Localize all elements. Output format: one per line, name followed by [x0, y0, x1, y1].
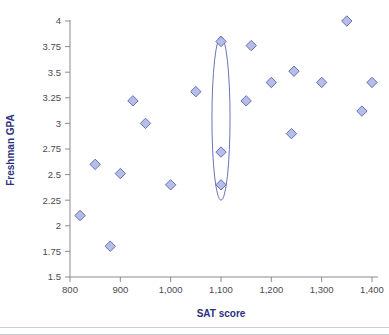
data-point-marker: [140, 118, 150, 128]
x-tick-label: 1,000: [159, 284, 183, 295]
y-tick-label: 4: [56, 15, 61, 26]
data-point-marker: [266, 77, 276, 87]
x-axis-tick-labels: 8009001,0001,1001,2001,3001,400: [62, 284, 384, 295]
data-point-marker: [342, 16, 352, 26]
x-tick-label: 800: [62, 284, 78, 295]
x-tick-label: 900: [112, 284, 128, 295]
y-tick-label: 1.75: [43, 246, 62, 257]
x-tick-label: 1,100: [209, 284, 233, 295]
data-point-marker: [90, 159, 100, 169]
y-tick-label: 3.75: [43, 41, 62, 52]
data-point-marker: [316, 77, 326, 87]
data-point-marker: [128, 96, 138, 106]
annotation-layer: [212, 36, 230, 200]
y-tick-label: 3: [56, 118, 61, 129]
chart-canvas: 8009001,0001,1001,2001,3001,400 1.51.752…: [0, 0, 389, 335]
x-tick-label: 1,200: [259, 284, 283, 295]
data-point-marker: [115, 168, 125, 178]
highlight-ellipse: [212, 36, 230, 200]
y-tick-label: 1.5: [48, 271, 61, 282]
y-tick-label: 3.25: [43, 92, 62, 103]
x-tick-label: 1,400: [360, 284, 384, 295]
y-tick-label: 2.75: [43, 143, 62, 154]
y-tick-label: 2.5: [48, 169, 61, 180]
footer-divider: [0, 327, 389, 335]
data-point-marker: [216, 180, 226, 190]
y-axis-title: Freshman GPA: [5, 114, 16, 186]
data-point-marker: [191, 86, 201, 96]
y-tick-label: 2.25: [43, 195, 62, 206]
data-point-marker: [105, 241, 115, 251]
data-point-marker: [165, 180, 175, 190]
y-tick-label: 3.5: [48, 67, 61, 78]
data-point-marker: [357, 106, 367, 116]
data-point-marker: [241, 96, 251, 106]
data-point-marker: [367, 77, 377, 87]
data-point-marker: [286, 128, 296, 138]
y-axis-tick-labels: 1.51.7522.252.52.7533.253.53.754: [43, 15, 62, 282]
data-point-marker: [75, 210, 85, 220]
data-point-marker: [246, 40, 256, 50]
x-tick-label: 1,300: [310, 284, 334, 295]
data-point-marker: [289, 66, 299, 76]
scatter-chart: 8009001,0001,1001,2001,3001,400 1.51.752…: [0, 0, 389, 335]
x-axis-title: SAT score: [197, 308, 246, 319]
y-tick-label: 2: [56, 220, 61, 231]
data-point-marker: [216, 36, 226, 46]
data-point-marker: [216, 147, 226, 157]
axes: [70, 20, 378, 277]
